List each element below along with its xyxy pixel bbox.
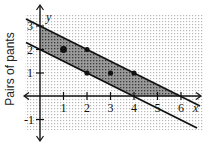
y-axis-title: Pairs of pants — [3, 29, 17, 109]
feasible-region-chart: 1 2 3 4 5 6 3 2 1 -1 x y — [0, 0, 210, 145]
x-axis-letter: x — [192, 101, 199, 115]
point-4-1 — [131, 70, 136, 75]
y-axis-letter: y — [45, 10, 52, 24]
y-tick-label: -1 — [24, 113, 34, 127]
point-2-1 — [84, 70, 89, 75]
point-2-2 — [84, 47, 89, 52]
x-tick-label: 4 — [131, 101, 137, 115]
point-1-2 — [60, 46, 67, 53]
y-tick-label: 2 — [27, 43, 33, 57]
x-tick-label: 1 — [61, 101, 67, 115]
y-tick-label: 3 — [27, 19, 33, 33]
x-tick-label: 5 — [155, 101, 161, 115]
y-tick-label: 1 — [27, 66, 33, 80]
point-3-1 — [108, 70, 113, 75]
x-tick-label: 3 — [108, 101, 114, 115]
x-tick-label: 6 — [178, 101, 184, 115]
x-tick-label: 2 — [84, 101, 90, 115]
